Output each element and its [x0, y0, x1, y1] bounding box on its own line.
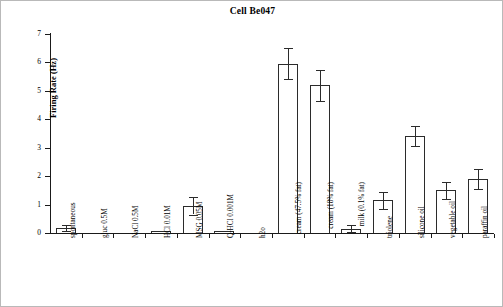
- x-label-nacl-0-5m: NaCl 0.5M: [132, 206, 141, 238]
- x-tick-5: [240, 234, 241, 238]
- y-tick-label-5: 5: [15, 87, 41, 95]
- x-label-gluc-0-5m: gluc 0.5M: [101, 208, 110, 238]
- error-cap-11-upper: [411, 126, 420, 127]
- error-cap-12-upper: [442, 182, 451, 183]
- y-tick-label-2: 2: [15, 172, 41, 180]
- x-label-triolene: triolene: [386, 216, 395, 238]
- y-tick-label-7: 7: [15, 30, 41, 38]
- error-cap-10-upper: [379, 192, 388, 193]
- error-bar-7: [288, 48, 289, 79]
- y-tick-label-3: 3: [15, 144, 41, 152]
- y-tick-label-0: 0: [15, 229, 41, 237]
- y-tick-5: [45, 91, 50, 92]
- y-tick-3: [45, 148, 50, 149]
- y-tick-label-4: 4: [15, 115, 41, 123]
- x-tick-6: [272, 234, 273, 238]
- x-label-paraffin-oil: paraffin oil: [481, 206, 490, 238]
- error-cap-10-lower: [379, 209, 388, 210]
- x-tick-7: [304, 234, 305, 238]
- y-tick-4: [45, 119, 50, 120]
- x-label-vegetable-oil: vegetable oil: [449, 201, 458, 238]
- x-label-cream-47-5-fat-: cream (47.5% fat): [295, 182, 304, 238]
- x-tick-4: [209, 234, 210, 238]
- x-label-q-hcl-0-001m: Q-HCl 0.001M: [227, 194, 236, 238]
- y-tick-label-6: 6: [15, 58, 41, 66]
- y-tick-label-1: 1: [15, 201, 41, 209]
- error-bar-10: [383, 192, 384, 209]
- error-cap-7-upper: [284, 48, 293, 49]
- x-tick-0: [82, 234, 83, 238]
- error-bar-9: [351, 225, 352, 232]
- x-tick-13: [494, 234, 495, 238]
- x-tick-9: [367, 234, 368, 238]
- chart-title: Cell Be047: [1, 6, 503, 16]
- x-tick-10: [399, 234, 400, 238]
- x-label-silicone-oil: silicone oil: [418, 206, 427, 238]
- error-cap-12-lower: [442, 199, 451, 200]
- y-tick-0: [45, 233, 50, 234]
- error-bar-8: [320, 70, 321, 101]
- y-tick-7: [45, 34, 50, 35]
- x-label-cream-18-fat-: cream (18% fat): [327, 182, 336, 238]
- x-label-h2o: h2o: [259, 227, 268, 238]
- x-label-milk-0-1-fat-: milk (0.1% fat): [358, 182, 367, 238]
- error-cap-13-lower: [474, 189, 483, 190]
- y-axis-label: Firing Rate (Hz): [48, 28, 58, 148]
- error-cap-13-upper: [474, 169, 483, 170]
- error-cap-9-upper: [347, 225, 356, 226]
- y-tick-6: [45, 62, 50, 63]
- chart-figure: Cell Be047 Firing Rate (Hz) 01234567 spo…: [0, 0, 503, 307]
- x-label-spontaneous: spontaneous: [69, 202, 78, 238]
- x-tick-11: [431, 234, 432, 238]
- error-cap-7-lower: [284, 79, 293, 80]
- error-cap-9-lower: [347, 232, 356, 233]
- x-tick-3: [177, 234, 178, 238]
- error-bar-11: [415, 126, 416, 146]
- error-bar-4: [193, 197, 194, 214]
- x-label-hcl-0-01m: HCl 0.01M: [164, 205, 173, 238]
- y-tick-1: [45, 205, 50, 206]
- error-cap-8-upper: [316, 70, 325, 71]
- x-tick-12: [462, 234, 463, 238]
- x-tick-2: [145, 234, 146, 238]
- error-bar-13: [478, 169, 479, 189]
- x-label-msg-0-05m: MSG 0.05M: [196, 202, 205, 238]
- error-cap-11-lower: [411, 146, 420, 147]
- error-bar-12: [446, 182, 447, 199]
- y-tick-2: [45, 176, 50, 177]
- error-cap-4-upper: [189, 197, 198, 198]
- error-cap-8-lower: [316, 101, 325, 102]
- x-tick-1: [113, 234, 114, 238]
